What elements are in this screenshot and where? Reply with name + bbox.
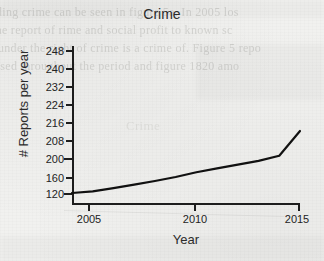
chart-screenshot: ding crime can be seen in figure 5a. In … bbox=[0, 0, 324, 261]
crime-data-line bbox=[72, 131, 300, 193]
chart-plot-svg bbox=[0, 0, 324, 261]
crime-line-chart: Crime 248 240 232 224 216 208 200 160 12… bbox=[0, 0, 324, 261]
